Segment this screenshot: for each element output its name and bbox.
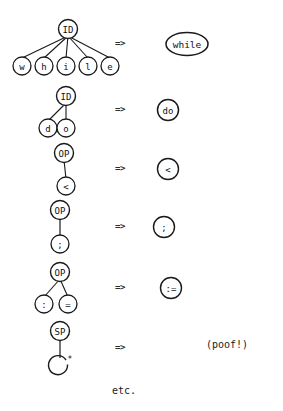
tree-node-root: ID	[59, 20, 78, 39]
result-token-assign: :=	[161, 278, 182, 299]
tree-node-label: l	[85, 62, 90, 72]
tree-assign: OP : = :=	[0, 255, 283, 315]
diagram-caption: etc.	[112, 385, 136, 396]
tree-edge	[66, 36, 68, 58]
tree-node-leaf: h	[35, 57, 53, 75]
rewrite-arrow: =>	[115, 342, 125, 352]
tree-node-label: o	[63, 124, 68, 134]
result-token-label: ;	[161, 223, 166, 233]
tree-node-label: OP	[55, 268, 66, 278]
tree-node-label: ;	[57, 240, 62, 250]
diagram-canvas: ID w h i l e	[0, 0, 283, 411]
rule-row-lessthan: OP < < =>	[0, 139, 283, 196]
tree-node-root: OP	[51, 201, 70, 220]
rewrite-arrow: =>	[115, 104, 125, 114]
tree-node-label: OP	[55, 206, 66, 216]
tree-while: ID w h i l e	[0, 0, 283, 82]
tree-node-label: h	[41, 62, 46, 72]
tree-node-label: *	[68, 355, 73, 364]
rule-row-space: SP * => (poof!)	[0, 315, 283, 377]
tree-node-leaf: ;	[51, 235, 69, 253]
tree-edge	[68, 36, 88, 58]
result-token-label: while	[173, 39, 202, 50]
tree-node-label: <	[63, 182, 69, 192]
rule-row-assign: OP : = := =>	[0, 255, 283, 315]
tree-do: ID d o do	[0, 82, 283, 139]
rule-row-semicolon: OP ; ; =>	[0, 196, 283, 255]
tree-node-root: SP	[51, 322, 70, 341]
tree-lessthan: OP < <	[0, 139, 283, 196]
tree-node-label: =	[65, 300, 71, 310]
tree-node-leaf: l	[79, 57, 97, 75]
rule-row-do: ID d o do =>	[0, 82, 283, 139]
tree-node-label: :	[41, 300, 46, 310]
result-token-label: <	[165, 165, 171, 175]
rewrite-arrow: =>	[115, 163, 125, 173]
rewrite-arrow: =>	[115, 282, 125, 292]
tree-node-label: ID	[63, 25, 74, 35]
tree-node-leaf: o	[57, 119, 75, 137]
tree-node-leaf: =	[59, 295, 77, 313]
tree-edge	[22, 36, 68, 58]
tree-node-label: e	[107, 62, 112, 72]
rewrite-arrow: =>	[115, 221, 125, 231]
tree-node-label: i	[63, 62, 68, 72]
tree-node-root: OP	[51, 263, 70, 282]
tree-node-leaf: :	[35, 295, 53, 313]
loop-arc	[49, 356, 68, 375]
result-token-while: while	[166, 33, 208, 56]
tree-node-root: ID	[57, 87, 76, 106]
result-token-do: do	[158, 100, 179, 121]
tree-node-label: SP	[55, 327, 66, 337]
tree-node-leaf: d	[39, 119, 57, 137]
tree-node-label: d	[45, 124, 50, 134]
tree-node-label: w	[19, 62, 25, 72]
tree-node-leaf: i	[57, 57, 75, 75]
tree-edge	[44, 36, 68, 58]
tree-node-leaf: w	[13, 57, 31, 75]
tree-node-label: ID	[61, 92, 72, 102]
result-token-semicolon: ;	[154, 217, 175, 238]
tree-node-leaf: <	[57, 177, 75, 195]
tree-node-root: OP	[55, 144, 74, 163]
result-token-label: :=	[166, 284, 177, 294]
result-token-label: do	[163, 106, 174, 116]
tree-node-label: OP	[59, 149, 70, 159]
result-token-lessthan: <	[158, 159, 179, 180]
tree-node-leaf: e	[101, 57, 119, 75]
rewrite-arrow: =>	[115, 38, 125, 48]
tree-edge	[68, 36, 110, 58]
rule-row-while: ID w h i l e	[0, 0, 283, 82]
tree-semicolon: OP ; ;	[0, 196, 283, 255]
result-token-poof: (poof!)	[206, 339, 248, 350]
